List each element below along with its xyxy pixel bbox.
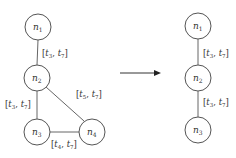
graph-reduction-diagram: [t3, t7] [t3, t7] [t5, t7] [t4, t7] n1 n…	[0, 0, 236, 158]
edge-label-n1-n2: [t3, t7]	[42, 48, 68, 59]
node-n2: n2	[24, 65, 50, 91]
transform-arrow	[120, 70, 161, 76]
node-n3: n3	[185, 117, 211, 143]
node-n3: n3	[24, 119, 50, 145]
edge-label-n1-n2: [t3, t7]	[203, 48, 229, 59]
edge-label-n3-n4: [t4, t7]	[51, 139, 77, 150]
left-graph: [t3, t7] [t3, t7] [t5, t7] [t4, t7] n1 n…	[5, 14, 105, 150]
edge-label-n2-n3: [t3, t7]	[203, 97, 229, 108]
edge-label-n2-n4: [t5, t7]	[76, 89, 102, 100]
node-n1: n1	[25, 14, 51, 40]
node-n4: n4	[79, 119, 105, 145]
node-n2: n2	[185, 65, 211, 91]
edge-n1-n2	[37, 40, 38, 65]
arrow-head-icon	[154, 70, 161, 76]
edge-label-n2-n3: [t3, t7]	[5, 99, 31, 110]
node-n1: n1	[185, 13, 211, 39]
right-graph: [t3, t7] [t3, t7] n1 n2 n3	[185, 13, 229, 143]
